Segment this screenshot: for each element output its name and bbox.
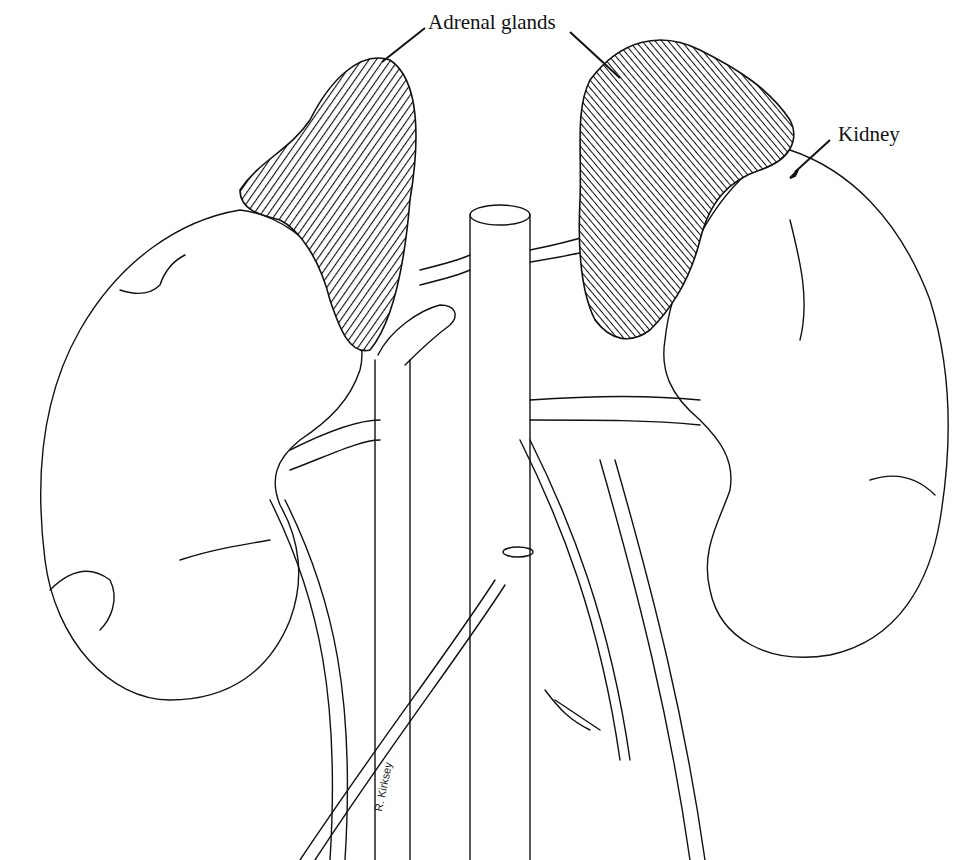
left-kidney (41, 210, 362, 700)
kidney-adrenal-illustration (0, 0, 971, 860)
adrenal-glands-label: Adrenal glands (428, 10, 556, 35)
right-adrenal-gland (579, 40, 793, 339)
left-adrenal-gland (240, 58, 416, 351)
aorta (470, 215, 530, 860)
right-kidney (664, 150, 948, 657)
kidney-label: Kidney (838, 122, 900, 147)
